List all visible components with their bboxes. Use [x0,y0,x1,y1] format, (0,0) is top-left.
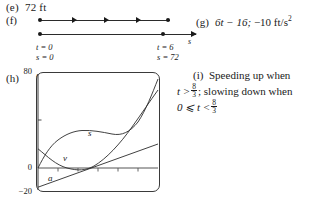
position-curve-label: s [88,128,92,138]
part-g-exponent: 2 [288,14,292,23]
part-i-line2: t >83; slowing down when [177,83,319,99]
marker-label-left: t = 0 s = 0 [36,42,54,62]
part-g-value: −10 ft/s [254,16,288,28]
part-i-line2-pre: t > [177,85,190,97]
s-axis-dot-t6 [161,32,165,36]
motion-graph: 80 0 −20 6 s v a [36,72,160,192]
direction-arrow-icon [136,17,141,23]
part-g-answer: (g)6t − 16; −10 ft/s2 [196,14,292,28]
fraction-denominator: 3 [191,91,197,99]
part-e-answer: (e)72 ft [6,1,46,13]
part-i-line2-post: ; slowing down when [198,85,292,97]
fraction-eight-thirds: 83 [211,99,217,115]
part-e-value: 72 ft [25,1,46,13]
motion-end-dot [166,18,170,22]
motion-start-dot [38,18,42,22]
part-e-label: (e) [6,1,25,13]
part-i-label: (i) [193,68,209,83]
s-axis-name: s [188,37,191,46]
fraction-eight-thirds: 83 [191,83,197,99]
plot-curves [36,72,160,192]
part-g-label: (g) [196,16,215,28]
acceleration-curve [38,144,158,187]
part-i-line1: Speeding up when [209,69,290,81]
marker-left-t: t = 0 [36,42,53,52]
y-tick-label-neg20: −20 [8,186,32,196]
marker-right-t: t = 6 [157,42,174,52]
part-g-expression: 6t − 16; [215,16,251,28]
s-axis-arrow-icon [191,31,197,37]
s-axis-line [40,34,196,35]
y-tick-label-0: 0 [12,162,32,172]
y-tick-label-80: 80 [12,66,32,76]
velocity-curve-label: v [63,153,67,163]
motion-diagram: s t = 0 s = 0 t = 6 s = 72 [36,15,214,61]
position-curve [38,79,158,168]
fraction-denominator: 3 [211,107,217,115]
marker-label-right: t = 6 s = 72 [157,42,179,62]
velocity-curve [38,90,158,170]
part-i-answer: (i)Speeding up when t >83; slowing down … [193,68,319,115]
marker-left-s: s = 0 [36,52,54,62]
direction-arrow-icon [104,17,109,23]
acceleration-curve-label: a [48,173,53,183]
marker-right-s: s = 72 [157,52,179,62]
direction-arrow-icon [72,17,77,23]
part-f-label: (f) [6,14,17,26]
s-axis-dot-t0 [38,32,42,36]
part-i-line3: 0 ⩽ t <83 [177,99,319,115]
part-i-line3-pre: 0 ⩽ t < [177,101,210,113]
